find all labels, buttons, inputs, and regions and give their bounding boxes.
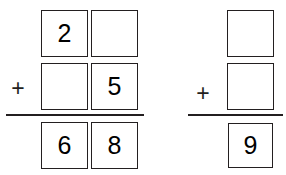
problem-1-addend1-ones-cell[interactable] xyxy=(91,10,138,57)
problem-1-sum-rule xyxy=(6,114,144,116)
worksheet-canvas: + 2 5 6 8 + 9 xyxy=(0,0,286,175)
problem-2-sum-ones-cell[interactable]: 9 xyxy=(228,123,273,168)
plus-operator-icon: + xyxy=(8,78,28,98)
problem-1-sum-tens-digit: 6 xyxy=(58,133,72,158)
problem-1-addend2-ones-digit: 5 xyxy=(108,74,122,99)
problem-2-addend1-ones-cell[interactable] xyxy=(227,10,274,57)
problem-2-sum-rule xyxy=(188,114,283,116)
problem-1-sum-ones-cell[interactable]: 8 xyxy=(91,122,138,169)
addition-problem-2: + 9 xyxy=(150,0,286,175)
problem-1-addend2-tens-cell[interactable] xyxy=(41,63,88,110)
plus-operator-icon: + xyxy=(193,83,213,103)
problem-1-addend1-tens-cell[interactable]: 2 xyxy=(41,10,88,57)
problem-1-addend2-ones-cell[interactable]: 5 xyxy=(91,63,138,110)
problem-2-addend2-ones-cell[interactable] xyxy=(227,63,274,110)
problem-1-sum-ones-digit: 8 xyxy=(108,133,122,158)
problem-2-sum-ones-digit: 9 xyxy=(244,133,258,158)
addition-problem-1: + 2 5 6 8 xyxy=(0,0,150,175)
problem-1-addend1-tens-digit: 2 xyxy=(58,21,72,46)
problem-1-sum-tens-cell[interactable]: 6 xyxy=(41,122,88,169)
